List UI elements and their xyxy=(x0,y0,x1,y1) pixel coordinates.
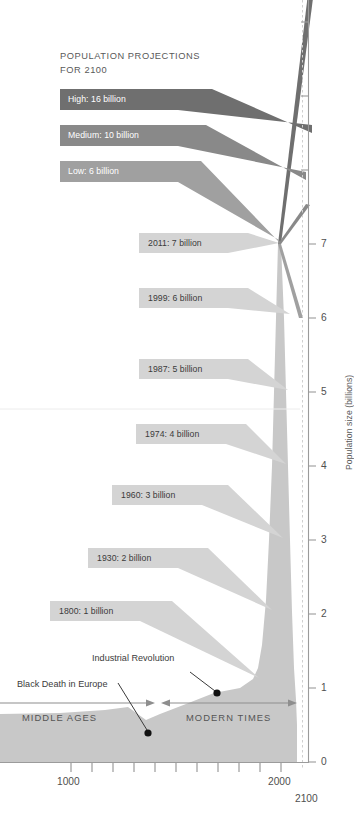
milestone-label-1960: 1960: 3 billion xyxy=(121,490,175,500)
annotation-label-industrial-revolution: Industrial Revolution xyxy=(92,653,174,663)
y-tick-label-3: 3 xyxy=(321,534,327,545)
projection-label-high: High: 16 billion xyxy=(68,94,126,104)
y-axis-title: Population size (billions) xyxy=(344,375,354,470)
y-tick-label-4: 4 xyxy=(321,460,327,471)
population-chart: POPULATION PROJECTIONS FOR 2100 High: 16… xyxy=(0,0,354,822)
x-tick-label-2000: 2000 xyxy=(268,776,291,787)
projection-label-low: Low: 6 billion xyxy=(68,166,119,176)
chart-title-line1: POPULATION PROJECTIONS xyxy=(60,50,200,64)
era-label-modern-times: MODERN TIMES xyxy=(186,712,271,723)
y-tick-label-2: 2 xyxy=(321,608,327,619)
projection-label-medium: Medium: 10 billion xyxy=(68,130,139,140)
milestone-label-1999: 1999: 6 billion xyxy=(148,293,202,303)
y-axis xyxy=(301,0,316,763)
y-tick-label-0: 0 xyxy=(321,756,327,767)
x-axis xyxy=(0,763,309,773)
x-tick-label-1000: 1000 xyxy=(57,776,80,787)
y-tick-label-1: 1 xyxy=(321,682,327,693)
era-label-middle-ages: MIDDLE AGES xyxy=(22,712,97,723)
projection-high-wedge xyxy=(278,0,318,244)
annotation-label-black-death: Black Death in Europe xyxy=(17,679,108,689)
annotation-industrial-revolution xyxy=(190,672,221,697)
y-tick-label-5: 5 xyxy=(321,386,327,397)
y-tick-label-6: 6 xyxy=(321,312,327,323)
milestone-label-1800: 1800: 1 billion xyxy=(59,606,113,616)
milestone-label-1987: 1987: 5 billion xyxy=(148,364,202,374)
milestone-label-1974: 1974: 4 billion xyxy=(145,429,199,439)
chart-canvas xyxy=(0,0,354,822)
milestone-label-2011: 2011: 7 billion xyxy=(148,238,202,248)
milestone-label-1930: 1930: 2 billion xyxy=(97,553,151,563)
chart-title-line2: FOR 2100 xyxy=(60,64,107,78)
x-tick-label-2100: 2100 xyxy=(295,793,318,804)
y-tick-label-7: 7 xyxy=(321,238,327,249)
